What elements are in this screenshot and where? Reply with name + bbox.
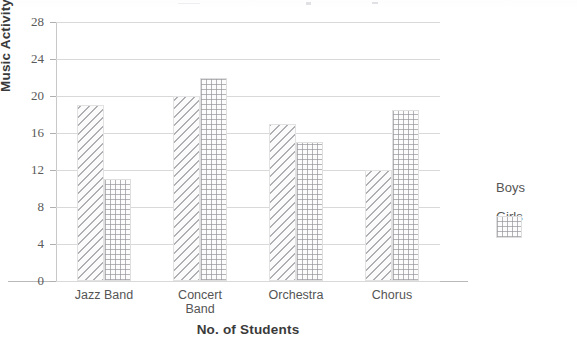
y-tick-label-16: 16: [4, 125, 44, 141]
gridline-20: [56, 96, 440, 97]
x-category-label-2: Orchestra: [241, 288, 351, 302]
y-tick-24: [50, 59, 56, 60]
scan-artifact-strip: [0, 0, 577, 9]
bar-boys-2: [269, 124, 296, 281]
legend-label-boys: Boys: [496, 180, 525, 195]
x-axis-title: No. of Students: [56, 322, 440, 337]
y-tick-28: [50, 22, 56, 23]
bar-boys-0: [77, 105, 104, 281]
bar-boys-3: [365, 170, 392, 281]
plot-area: [56, 22, 440, 281]
bar-girls-3: [392, 110, 419, 281]
gridline-0: [56, 281, 440, 282]
bar-boys-1: [173, 96, 200, 281]
legend-item-boys: Boys: [496, 180, 525, 195]
y-tick-4: [50, 244, 56, 245]
y-tick-20: [50, 96, 56, 97]
y-tick-label-20: 20: [4, 88, 44, 104]
legend: Boys Girls: [496, 180, 525, 238]
y-tick-label-28: 28: [4, 14, 44, 30]
legend-swatch-girls: [496, 216, 522, 238]
y-tick-label-12: 12: [4, 162, 44, 178]
y-tick-label-4: 4: [4, 236, 44, 252]
legend-item-girls: Girls: [496, 209, 525, 224]
gridline-28: [56, 22, 440, 23]
gridline-16: [56, 133, 440, 134]
y-tick-12: [50, 170, 56, 171]
bar-girls-0: [104, 179, 131, 281]
bar-girls-1: [200, 78, 227, 282]
y-tick-label-24: 24: [4, 51, 44, 67]
x-category-label-1: Concert Band: [145, 288, 255, 316]
x-category-label-3: Chorus: [337, 288, 447, 302]
bar-girls-2: [296, 142, 323, 281]
x-category-label-0: Jazz Band: [49, 288, 159, 302]
y-tick-8: [50, 207, 56, 208]
bar-chart: Music Activity 0481216202428 Jazz BandCo…: [0, 0, 577, 348]
y-tick-0: [50, 281, 56, 282]
y-tick-label-8: 8: [4, 199, 44, 215]
y-tick-16: [50, 133, 56, 134]
gridline-24: [56, 59, 440, 60]
y-tick-label-0: 0: [4, 273, 44, 289]
